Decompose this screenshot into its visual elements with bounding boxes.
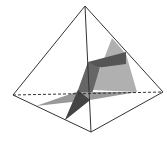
edge-front-right <box>91 92 163 132</box>
edge-apex-left <box>13 6 85 95</box>
pyramid-diagram <box>0 0 167 141</box>
